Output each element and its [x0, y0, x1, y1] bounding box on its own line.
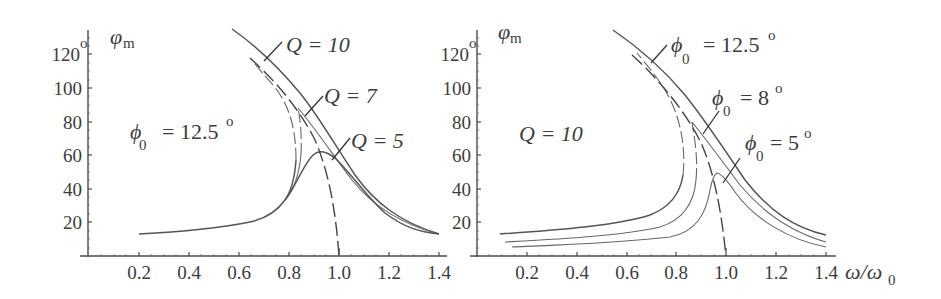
- right-ytick-degree: o: [469, 35, 477, 51]
- left-curve-q5: [285, 152, 439, 234]
- right-ytick-120: 120: [441, 44, 470, 65]
- right-label-phi8-value: = 8: [740, 85, 769, 110]
- right-label-phi12.5-sub: 0: [682, 51, 690, 67]
- right-x-ticks: [489, 248, 826, 256]
- right-leader-phi5: [723, 158, 740, 183]
- left-label-phi0-value: = 12.5: [162, 119, 218, 144]
- right-label-phi8-degree: o: [775, 80, 783, 96]
- left-xtick-0.6: 0.6: [227, 262, 251, 283]
- left-label-phi0-degree: o: [226, 113, 234, 129]
- right-ytick-100: 100: [443, 78, 472, 99]
- right-curve-phi5: [512, 173, 826, 247]
- right-label-phi12.5-degree: o: [768, 27, 776, 43]
- left-label-q7: Q = 7: [324, 83, 378, 108]
- right-xtick-1.0: 1.0: [714, 262, 738, 283]
- left-curve-q10-unstable: [252, 60, 296, 160]
- left-xtick-0.2: 0.2: [127, 262, 151, 283]
- right-panel: 20 40 60 80 100 120 o φ m 0.2 0.4 0.6 0.…: [441, 19, 896, 288]
- left-ytick-100: 100: [54, 78, 83, 99]
- left-curve-low-branch: [139, 200, 285, 234]
- left-xtick-1.2: 1.2: [377, 262, 401, 283]
- right-label-phi8-sub: 0: [723, 103, 731, 119]
- right-ytick-20: 20: [452, 212, 471, 233]
- right-ytick-40: 40: [452, 179, 471, 200]
- left-panel: 20 40 60 80 100 120 o φ m 0.2 0.4 0.: [52, 24, 452, 283]
- right-label-phi12.5-symbol: ϕ: [671, 32, 682, 57]
- left-xtick-1.4: 1.4: [427, 262, 451, 283]
- right-curve-phi8-low: [505, 180, 696, 242]
- right-ylabel-sub: m: [510, 30, 522, 46]
- right-curve-phi12.5-low: [500, 175, 683, 234]
- left-ytick-degree: o: [80, 35, 88, 51]
- left-ytick-20: 20: [63, 212, 82, 233]
- right-label-phi5-degree: o: [804, 125, 812, 141]
- right-label-q10: Q = 10: [519, 121, 583, 146]
- figure: 20 40 60 80 100 120 o φ m 0.2 0.4 0.: [0, 0, 941, 299]
- left-xtick-0.4: 0.4: [177, 262, 201, 283]
- right-label-phi12.5-value: = 12.5: [703, 32, 759, 57]
- left-leader-q10: [264, 42, 282, 61]
- left-curve-q10-fold: [285, 160, 296, 200]
- left-ylabel: φ: [110, 24, 122, 49]
- left-xtick-0.8: 0.8: [277, 262, 301, 283]
- right-xtick-0.2: 0.2: [515, 262, 539, 283]
- left-ytick-40: 40: [63, 179, 82, 200]
- right-curve-phi12.5-unstable: [637, 53, 684, 175]
- right-xtick-1.2: 1.2: [764, 262, 788, 283]
- left-curve-q7-upper: [298, 108, 439, 234]
- left-label-q5: Q = 5: [351, 128, 404, 153]
- right-leader-phi12.5: [651, 45, 667, 63]
- left-leader-q5: [332, 138, 350, 160]
- right-xtick-0.4: 0.4: [565, 262, 589, 283]
- right-xtick-0.8: 0.8: [664, 262, 688, 283]
- left-ytick-120: 120: [52, 44, 81, 65]
- left-x-ticks: [101, 248, 439, 256]
- right-ylabel: φ: [498, 19, 510, 44]
- left-curve-q10-upper: [232, 29, 439, 234]
- right-label-phi8-symbol: ϕ: [712, 85, 723, 110]
- right-xtick-0.6: 0.6: [615, 262, 639, 283]
- right-xlabel: ω/ω: [845, 259, 882, 284]
- right-ytick-80: 80: [452, 112, 471, 133]
- right-ytick-60: 60: [452, 145, 471, 166]
- left-ylabel-sub: m: [123, 35, 135, 51]
- left-label-phi0-sub: 0: [139, 137, 147, 153]
- left-xtick-1.0: 1.0: [327, 262, 351, 283]
- right-xlabel-sub: 0: [888, 272, 896, 288]
- left-ytick-60: 60: [63, 145, 82, 166]
- right-xtick-1.4: 1.4: [814, 262, 838, 283]
- left-label-q10: Q = 10: [286, 32, 350, 57]
- right-label-phi5-sub: 0: [756, 148, 764, 164]
- right-label-phi5-symbol: ϕ: [745, 130, 756, 155]
- left-ytick-80: 80: [63, 112, 82, 133]
- right-label-phi5-value: = 5: [770, 130, 799, 155]
